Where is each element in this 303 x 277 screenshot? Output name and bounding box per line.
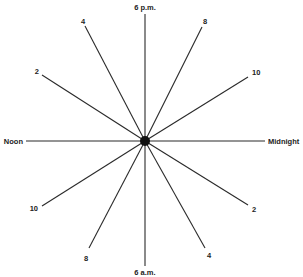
spoke-label-10pm: 10 [252,68,260,77]
spoke-label-4pm: 4 [81,17,86,26]
spoke-label-4am: 4 [207,251,212,260]
spoke-line-2am [145,141,248,205]
spoke-line-4am [145,141,205,248]
spoke-label-10am: 10 [30,204,38,213]
spoke-label-8pm: 8 [203,17,207,26]
spoke-line-10am [42,141,145,206]
spoke-label-midnight: Midnight [268,137,300,146]
spoke-label-2pm: 2 [35,67,39,76]
spoke-line-8am [89,141,145,248]
spoke-label-2am: 2 [252,205,256,214]
center-hub-dot [140,136,150,146]
labels-group: 6 p.m.810Midnight246 a.m.810Noon24 [4,3,300,277]
spoke-line-4pm [85,26,145,141]
spoke-label-8am: 8 [84,254,88,263]
spoke-label-6pm: 6 p.m. [134,3,156,12]
spoke-label-noon: Noon [4,137,24,146]
spoke-label-6am: 6 a.m. [134,268,155,277]
radial-time-diagram: 6 p.m.810Midnight246 a.m.810Noon24 [0,0,303,277]
spoke-line-2pm [42,75,145,141]
